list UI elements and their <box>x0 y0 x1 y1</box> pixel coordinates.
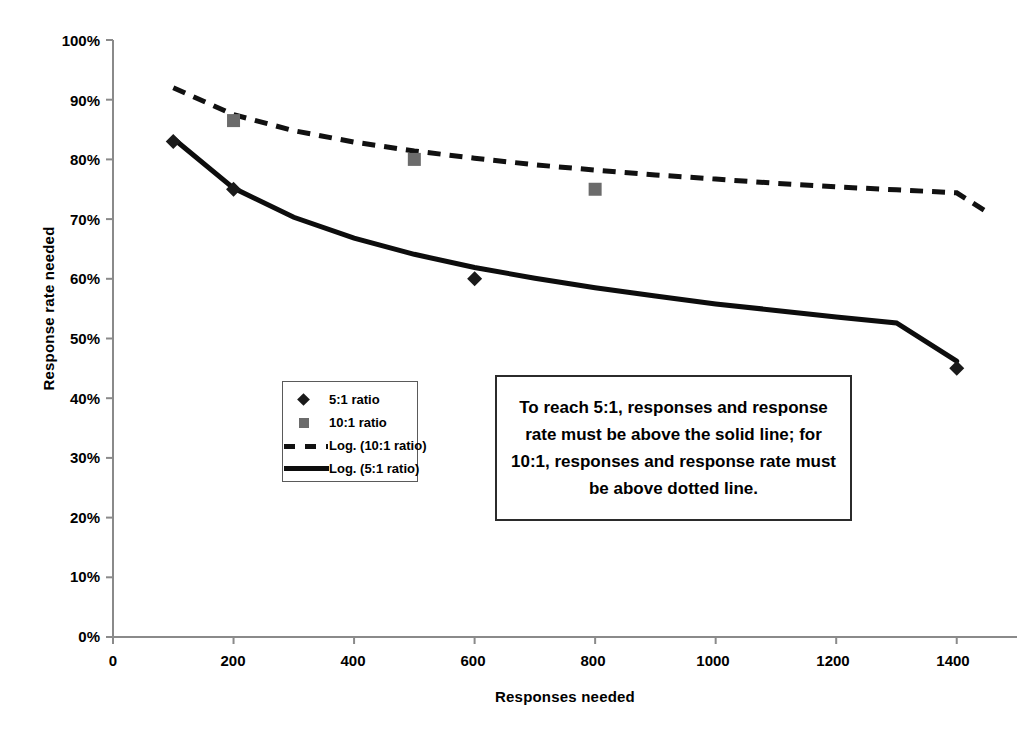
y-axis-ticks <box>106 40 113 637</box>
legend-label-log-10to1: Log. (10:1 ratio) <box>329 439 427 453</box>
chart-legend: 5:1 ratio 10:1 ratio Log. (10:1 ratio) L… <box>282 381 418 482</box>
trendline-log-10to1 <box>173 88 987 212</box>
plot-area <box>0 0 1035 729</box>
legend-item-10to1-ratio: 10:1 ratio <box>283 411 417 434</box>
square-marker-icon <box>283 414 329 432</box>
legend-label-5to1-ratio: 5:1 ratio <box>329 393 380 407</box>
series-markers-5to1 <box>166 134 964 376</box>
solid-line-icon <box>283 460 329 478</box>
legend-item-5to1-ratio: 5:1 ratio <box>283 388 417 411</box>
dashed-line-icon <box>283 437 329 455</box>
legend-item-log-5to1: Log. (5:1 ratio) <box>283 457 417 480</box>
legend-label-10to1-ratio: 10:1 ratio <box>329 416 387 430</box>
legend-label-log-5to1: Log. (5:1 ratio) <box>329 462 419 476</box>
x-axis-ticks <box>113 637 957 644</box>
annotation-textbox: To reach 5:1, responses and response rat… <box>495 375 852 521</box>
chart-canvas: Response rate needed Responses needed 10… <box>0 0 1035 729</box>
diamond-marker-icon <box>283 391 329 409</box>
legend-item-log-10to1: Log. (10:1 ratio) <box>283 434 417 457</box>
trendline-log-5to1 <box>173 139 956 362</box>
annotation-text: To reach 5:1, responses and response rat… <box>497 394 850 502</box>
